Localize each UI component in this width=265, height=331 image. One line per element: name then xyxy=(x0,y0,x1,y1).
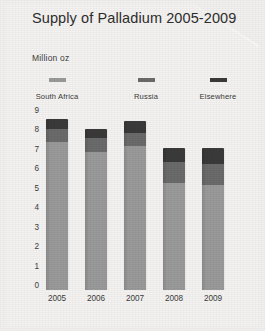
x-axis-tick: 2009 xyxy=(196,294,230,303)
legend-label-elsewhere: Elsewhere xyxy=(200,92,237,101)
bar-segment xyxy=(202,164,224,185)
bar-segment xyxy=(163,148,185,162)
bar-segment xyxy=(124,133,146,147)
plot-area: 0123456789 20052006200720082009 xyxy=(26,110,246,290)
bar-group[interactable] xyxy=(85,115,107,290)
y-axis-tick: 9 xyxy=(26,106,39,115)
legend-swatch-russia xyxy=(138,78,155,82)
stacked-bar[interactable] xyxy=(85,129,107,290)
y-axis-tick: 1 xyxy=(26,261,39,270)
bar-group[interactable] xyxy=(163,115,185,290)
bar-segment xyxy=(124,146,146,290)
bar-segment xyxy=(85,129,107,139)
bar-segment xyxy=(202,148,224,164)
y-axis-tick: 7 xyxy=(26,144,39,153)
y-axis-tick: 6 xyxy=(26,164,39,173)
x-axis-tick: 2006 xyxy=(79,294,113,303)
x-axis-tick: 2008 xyxy=(157,294,191,303)
bar-segment xyxy=(46,129,68,143)
x-axis-tick: 2005 xyxy=(40,294,74,303)
y-axis-tick: 0 xyxy=(26,281,39,290)
legend-swatch-elsewhere xyxy=(210,78,227,82)
chart-legend: South Africa Russia Elsewhere xyxy=(32,78,247,100)
legend-label-south-africa: South Africa xyxy=(36,92,79,101)
bar-segment xyxy=(46,119,68,129)
stacked-bar[interactable] xyxy=(124,121,146,290)
y-axis-tick: 5 xyxy=(26,183,39,192)
bar-segment xyxy=(124,121,146,133)
stacked-bar[interactable] xyxy=(163,148,185,290)
bar-group[interactable] xyxy=(46,115,68,290)
bar-group[interactable] xyxy=(124,115,146,290)
bar-segment xyxy=(202,185,224,290)
x-axis-tick: 2007 xyxy=(118,294,152,303)
legend-item-elsewhere: Elsewhere xyxy=(188,78,248,103)
stacked-bar[interactable] xyxy=(202,148,224,290)
bar-segment xyxy=(163,183,185,290)
bar-segment xyxy=(163,162,185,183)
bar-group[interactable] xyxy=(202,115,224,290)
y-axis-tick: 2 xyxy=(26,242,39,251)
legend-swatch-south-africa xyxy=(49,78,66,82)
bar-segment xyxy=(85,152,107,290)
legend-item-russia: Russia xyxy=(118,78,174,103)
bar-segment xyxy=(46,142,68,290)
legend-label-russia: Russia xyxy=(134,92,158,101)
legend-item-south-africa: South Africa xyxy=(26,78,88,103)
y-axis-tick: 3 xyxy=(26,222,39,231)
stacked-bar[interactable] xyxy=(46,119,68,290)
bar-segment xyxy=(85,138,107,152)
y-axis-tick: 8 xyxy=(26,125,39,134)
y-axis-tick: 4 xyxy=(26,203,39,212)
chart-page: Supply of Palladium 2005-2009 Million oz… xyxy=(0,0,265,331)
chart-subtitle: Million oz xyxy=(32,53,69,63)
chart-title: Supply of Palladium 2005-2009 xyxy=(32,10,242,27)
bar-series-area xyxy=(44,110,246,290)
